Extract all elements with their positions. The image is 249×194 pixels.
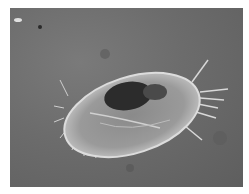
ciliate-illustration bbox=[10, 8, 243, 187]
micrograph-image bbox=[10, 8, 243, 187]
